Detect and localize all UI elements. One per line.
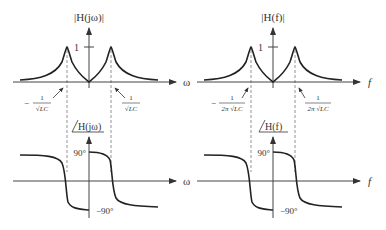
neg-freq-den: 2π √LC	[221, 105, 242, 113]
phase-curve-pos	[89, 152, 158, 207]
tick-90-label: 90°	[257, 148, 270, 158]
magnitude-ylabel: |H(f)|	[261, 11, 284, 24]
phase-ylabel: H(f)	[265, 121, 282, 133]
tick-one-label: 1	[74, 42, 79, 53]
neg-freq-sign: −	[24, 98, 29, 108]
tick-one-label: 1	[258, 42, 263, 53]
neg-freq-den: √LC	[36, 105, 49, 113]
neg-freq-num: 1	[230, 94, 234, 102]
neg-freq-arrow	[242, 88, 248, 98]
x-axis-label: ω	[183, 76, 190, 88]
pos-freq-den: √LC	[125, 105, 138, 113]
pos-freq-arrow	[115, 88, 125, 98]
tick-neg90-label: −90°	[280, 206, 298, 216]
frequency-response-diagram: |H(jω)| 1 ω − 1 √LC 1 √LC H(jω) 90° −90°…	[0, 0, 386, 230]
pos-freq-arrow	[299, 88, 305, 98]
x-axis-label: ω	[183, 175, 190, 187]
x-axis-label: f	[368, 76, 373, 88]
tick-90-label: 90°	[73, 148, 86, 158]
pos-freq-num: 1	[316, 94, 320, 102]
phase-curve-pos	[273, 152, 342, 207]
pos-freq-num: 1	[129, 94, 133, 102]
neg-freq-num: 1	[40, 94, 44, 102]
magnitude-ylabel: |H(jω)|	[74, 11, 104, 24]
neg-freq-sign: −	[211, 98, 216, 108]
tick-neg90-label: −90°	[96, 206, 114, 216]
left-phase-plot: H(jω) 90° −90° ω	[13, 120, 190, 218]
pos-freq-den: 2π √LC	[307, 105, 328, 113]
phase-curve-neg	[204, 155, 273, 210]
right-phase-plot: H(f) 90° −90° f	[197, 120, 373, 218]
left-magnitude-plot: |H(jω)| 1 ω − 1 √LC 1 √LC	[13, 11, 190, 172]
neg-freq-arrow	[53, 88, 63, 98]
right-magnitude-plot: |H(f)| 1 f − 1 2π √LC 1 2π √LC	[197, 11, 373, 172]
x-axis-label: f	[368, 175, 373, 187]
phase-curve-neg	[20, 155, 89, 210]
phase-ylabel: H(jω)	[78, 121, 101, 133]
